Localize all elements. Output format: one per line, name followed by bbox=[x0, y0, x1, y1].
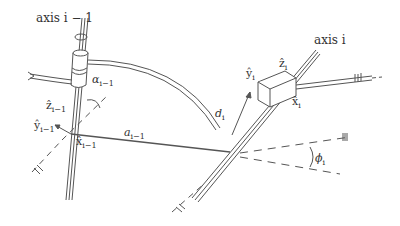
axis-curr-rod bbox=[192, 50, 320, 202]
a-label: ai−1 bbox=[124, 127, 145, 141]
alpha-label: αi−1 bbox=[92, 74, 114, 88]
z-prev-label: ẑi−1 bbox=[46, 100, 66, 114]
phi-label: ϕi bbox=[315, 153, 325, 167]
x-curr-label: x̂i bbox=[292, 96, 301, 110]
z-curr-label: ẑi bbox=[279, 58, 287, 72]
d-label: di bbox=[215, 108, 225, 122]
joint-cylinder-prev bbox=[71, 50, 88, 88]
y-prev-label: ŷi−1 bbox=[34, 120, 55, 134]
dh-diagram: axis i − 1 axis i αi−1 ai−1 di ϕi ẑi−1 ŷ… bbox=[0, 0, 400, 226]
axis-prev-rod bbox=[66, 18, 88, 200]
axis-prev-label: axis i − 1 bbox=[36, 12, 93, 24]
link-box-curr bbox=[258, 71, 296, 107]
axis-curr-label: axis i bbox=[314, 34, 346, 46]
x-prev-label: x̂i−1 bbox=[76, 136, 97, 150]
y-curr-label: ŷi bbox=[246, 68, 255, 82]
